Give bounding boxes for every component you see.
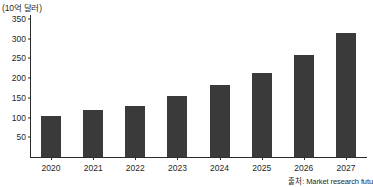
bar-slot xyxy=(325,15,367,157)
bar[interactable] xyxy=(210,85,230,157)
x-tick-label: 2027 xyxy=(325,163,367,173)
x-tick-mark xyxy=(177,157,178,160)
bar-slot xyxy=(283,15,325,157)
x-tick-label: 2022 xyxy=(114,163,156,173)
x-tick-mark xyxy=(304,157,305,160)
x-tick-label: 2020 xyxy=(30,163,72,173)
x-tick-label: 2025 xyxy=(241,163,283,173)
x-tick-mark xyxy=(135,157,136,160)
x-tick-label: 2021 xyxy=(72,163,114,173)
source-note: 출처: Market research futu xyxy=(288,175,373,186)
x-tick-label: 2024 xyxy=(199,163,241,173)
x-tick-mark xyxy=(220,157,221,160)
bar[interactable] xyxy=(336,33,356,157)
bar[interactable] xyxy=(294,55,314,157)
chart-figure: (10억 달러) 50100150200250300350 2020202120… xyxy=(0,0,373,187)
x-tick-label: 2023 xyxy=(156,163,198,173)
x-tick-mark xyxy=(51,157,52,160)
x-tick-label: 2026 xyxy=(283,163,325,173)
bar[interactable] xyxy=(125,106,145,157)
bar[interactable] xyxy=(41,116,61,157)
y-tick-label: 200 xyxy=(0,73,26,83)
y-axis-unit-label: (10억 달러) xyxy=(2,1,42,13)
x-tick-mark xyxy=(262,157,263,160)
bar[interactable] xyxy=(83,110,103,157)
y-tick-label: 50 xyxy=(0,132,26,142)
x-tick-mark xyxy=(346,157,347,160)
bar-slot xyxy=(156,15,198,157)
y-tick-label: 250 xyxy=(0,53,26,63)
y-tick-label: 100 xyxy=(0,113,26,123)
bar-series xyxy=(30,15,367,158)
x-tick-mark xyxy=(93,157,94,160)
bar[interactable] xyxy=(252,73,272,157)
y-tick-label: 300 xyxy=(0,34,26,44)
bar-slot xyxy=(72,15,114,157)
y-tick-label: 150 xyxy=(0,93,26,103)
bar-slot xyxy=(199,15,241,157)
bar-slot xyxy=(114,15,156,157)
y-tick-label: 350 xyxy=(0,14,26,24)
bar[interactable] xyxy=(167,96,187,157)
bar-slot xyxy=(30,15,72,157)
plot-area: 50100150200250300350 2020202120222023202… xyxy=(30,15,367,158)
bar-slot xyxy=(241,15,283,157)
